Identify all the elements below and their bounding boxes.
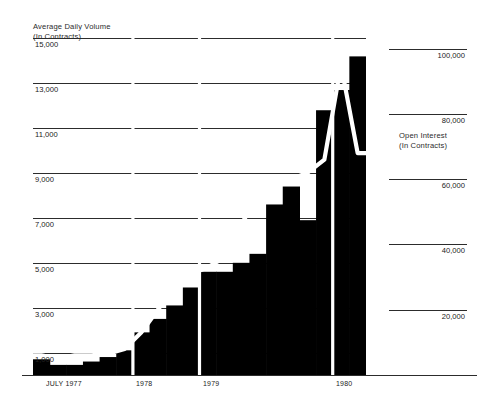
chart-graphic	[33, 16, 366, 375]
right-gridline	[389, 114, 467, 115]
left-axis-tick-label: 15,000	[35, 40, 58, 49]
right-axis: 100,00080,00060,00040,00020,000	[389, 160, 477, 375]
bar	[333, 90, 350, 375]
chart-page: Average Daily Volume (In Contracts) Open…	[0, 0, 479, 400]
bar	[183, 287, 200, 375]
bar	[83, 362, 100, 375]
right-axis-tick-label: 60,000	[442, 181, 465, 190]
bar	[283, 187, 300, 375]
axis-baseline	[22, 375, 477, 376]
left-axis-tick-label: 11,000	[35, 130, 58, 139]
x-axis-tick-label: JULY 1977	[46, 379, 82, 388]
left-axis-tick-label: 5,000	[35, 265, 54, 274]
bar	[216, 272, 233, 375]
x-axis-tick-label: 1980	[336, 379, 352, 388]
bar	[200, 272, 217, 375]
right-axis-title-line2: (In Contracts)	[399, 141, 447, 151]
right-axis-title: Open Interest (In Contracts)	[399, 131, 447, 150]
bar	[249, 254, 266, 375]
bar	[66, 365, 83, 375]
left-axis-tick-label: 1,000	[35, 355, 54, 364]
right-axis-tick-label: 20,000	[442, 312, 465, 321]
x-axis-tick-label: 1978	[136, 379, 152, 388]
right-axis-tick-label: 40,000	[442, 246, 465, 255]
right-gridline	[389, 179, 467, 180]
right-axis-title-line1: Open Interest	[399, 131, 447, 141]
left-axis-tick-label: 9,000	[35, 175, 54, 184]
right-gridline	[389, 49, 467, 50]
right-axis-tick-label: 100,000	[438, 51, 465, 60]
right-gridline	[389, 244, 467, 245]
left-axis-tick-label: 7,000	[35, 220, 54, 229]
right-gridline	[389, 310, 467, 311]
bar	[233, 263, 250, 375]
bar	[50, 365, 67, 375]
chart-svg	[33, 16, 366, 375]
bar	[349, 56, 366, 375]
bar	[166, 305, 183, 375]
bar	[266, 204, 283, 375]
bar	[116, 350, 133, 375]
year-divider	[131, 16, 134, 375]
bar	[150, 319, 167, 375]
bar	[100, 357, 117, 375]
left-axis-tick-label: 13,000	[35, 85, 58, 94]
bar	[299, 220, 316, 375]
x-axis-tick-label: 1979	[203, 379, 219, 388]
year-divider	[331, 16, 334, 375]
right-axis-tick-label: 80,000	[442, 116, 465, 125]
year-divider	[198, 16, 201, 375]
left-axis-tick-label: 3,000	[35, 310, 54, 319]
plot-area: 15,00013,00011,0009,0007,0005,0003,0001,…	[33, 16, 366, 375]
